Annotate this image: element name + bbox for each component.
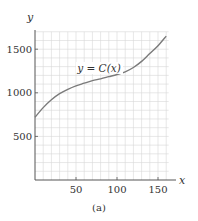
x-tick-label-50: 50 (70, 184, 83, 195)
figure-caption: (a) (92, 202, 106, 213)
x-tick-label-100: 100 (107, 184, 126, 195)
y-tick-label-500: 500 (13, 131, 32, 142)
y-tick-label-1000: 1000 (7, 87, 32, 98)
x-tick-label-150: 150 (148, 184, 167, 195)
y-tick-label-1500: 1500 (7, 44, 32, 55)
y-axis-label: y (26, 11, 34, 24)
chart: y x 1500 1000 500 50 100 150 y = C(x) (a… (0, 0, 198, 221)
curve-label: y = C(x) (76, 62, 121, 74)
x-axis-label: x (179, 174, 186, 187)
